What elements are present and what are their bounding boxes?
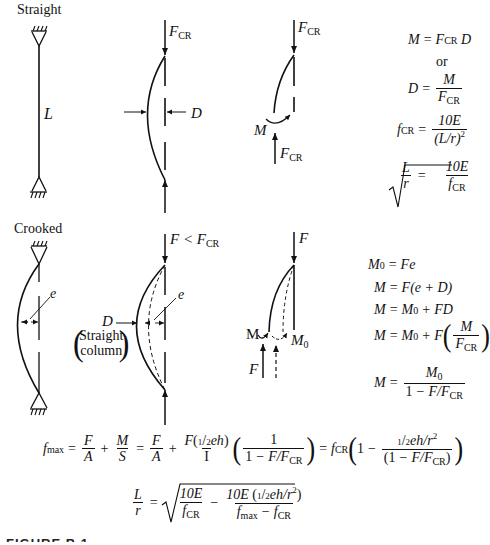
crooked-fb-moment-label: M [246, 327, 259, 342]
straight-free-body [266, 20, 294, 164]
section-title-straight: Straight [17, 3, 61, 17]
fb-force-bottom-label: FCR [280, 146, 303, 163]
crooked-fb-force-bottom-label: F [249, 362, 258, 377]
eq-moment-solution: M= M01−F/FCR [374, 366, 467, 401]
eq-moment: M=FCR D [408, 32, 471, 48]
eq-deflection: D= MFCR [408, 73, 464, 106]
eq-critical-stress: fCR= 10E(L/r)2 [397, 114, 469, 146]
fb-moment-label: M [254, 123, 267, 138]
crooked-pinned-column [18, 241, 51, 415]
eccentricity-label-mid: e [178, 288, 184, 302]
straight-buckled-column [124, 20, 186, 213]
eq-slenderness-crooked: Lr= 10EfCR − 10E (1/2eh/r2)fmax−fCR [130, 486, 306, 521]
eq-max-stress: fmax= FA+ MS= FA+ F(1/2eh)I (11−F/FCR) =… [43, 432, 463, 467]
eq-total-moment: M=F(e + D) [374, 280, 452, 296]
initial-moment-label: M0 [291, 333, 309, 350]
eccentricity-label-left: e [50, 287, 56, 301]
eq-moment-sum: M=M0+FD [374, 302, 453, 318]
critical-force-top-label: FCR [169, 24, 192, 41]
eq-initial-moment: M0=Fe [368, 257, 415, 273]
deflection-label: D [191, 106, 202, 121]
eq-or: or [436, 54, 448, 70]
crooked-fb-force-top-label: F [299, 231, 308, 246]
reduced-force-label: F < FCR [170, 232, 219, 249]
straight-column-note: ( Straight column ) [78, 329, 123, 358]
crooked-free-body [258, 232, 294, 378]
fb-force-top-label: FCR [298, 20, 321, 37]
length-label: L [44, 106, 53, 122]
eq-moment-amplified: M=M0+F (MFCR) [374, 320, 490, 353]
crooked-deflection-label: D [102, 314, 113, 329]
section-title-crooked: Crooked [14, 222, 62, 236]
eq-slenderness: Lr= 10EfCR [398, 160, 472, 193]
